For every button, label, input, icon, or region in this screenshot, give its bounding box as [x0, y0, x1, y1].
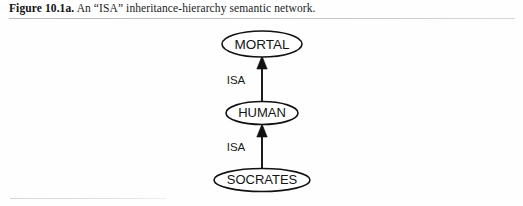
figure-caption: Figure 10.1a. An “ISA” inheritance-hiera… — [9, 0, 514, 16]
figure-number: Figure 10.1a. — [9, 2, 74, 14]
node-human-label: HUMAN — [238, 105, 286, 120]
node-mortal-label: MORTAL — [234, 37, 290, 52]
edge-socrates-to-human — [257, 124, 267, 169]
figure-page: Figure 10.1a. An “ISA” inheritance-hiera… — [0, 0, 523, 206]
node-human: HUMAN — [226, 102, 298, 125]
node-socrates-label: SOCRATES — [227, 172, 298, 187]
edge-human-to-mortal — [257, 56, 267, 102]
arrowhead-upper-icon — [257, 56, 267, 69]
edge-label-upper-isa: ISA — [227, 74, 246, 86]
arrowhead-lower-icon — [257, 124, 267, 137]
node-socrates: SOCRATES — [214, 169, 310, 192]
caption-divider-rule — [9, 18, 515, 19]
figure-caption-text: An “ISA” inheritance-hierarchy semantic … — [74, 2, 315, 14]
edge-label-lower-isa: ISA — [227, 141, 246, 153]
footer-rule — [10, 198, 166, 199]
semantic-network-diagram: MORTAL HUMAN SOCRATES ISA ISA — [0, 20, 523, 196]
node-mortal: MORTAL — [222, 31, 302, 57]
